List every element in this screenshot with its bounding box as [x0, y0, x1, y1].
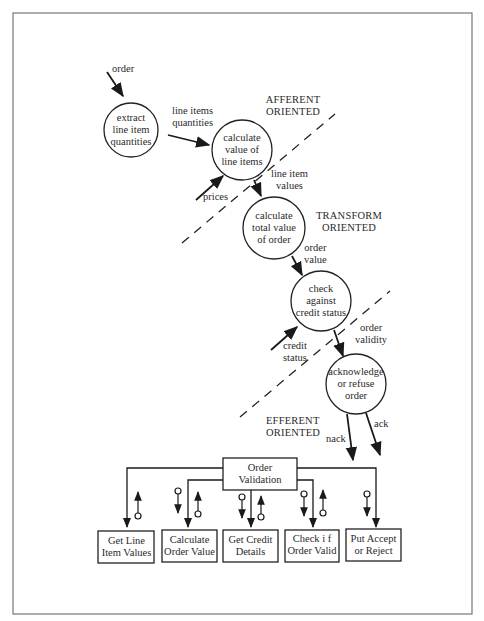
region-efferent-label: EFFERENT ORIENTED [266, 415, 328, 439]
flow-arrow-line-item-values [254, 180, 261, 196]
line: ack [374, 418, 389, 430]
line: prices [203, 191, 228, 203]
line: Details [223, 546, 278, 558]
line: order [304, 242, 327, 254]
line: line item [271, 168, 308, 180]
flow-arrow-order-value [292, 256, 302, 275]
line: Validation [223, 474, 297, 486]
line: order [326, 390, 386, 402]
module-label-check-if-order-valid: Check i f Order Valid [285, 533, 339, 557]
line: or Reject [346, 545, 401, 557]
line: Get Credit [223, 534, 278, 546]
flow-label-line-items-quantities: line items quantities [172, 105, 213, 129]
flow-label-prices: prices [203, 191, 228, 203]
flow-arrow-nack [347, 414, 353, 460]
region-afferent-label: AFFERENT ORIENTED [262, 94, 324, 118]
line: line items [172, 105, 213, 117]
process-label-calc-total: calculate total value of order [243, 210, 305, 246]
data-couples [135, 488, 370, 520]
line: Put Accept [346, 533, 401, 545]
page-frame [13, 13, 472, 614]
process-label-extract: extract line item quantities [104, 112, 158, 148]
line: calculate [243, 210, 305, 222]
line: Calculate [163, 534, 216, 546]
module-label-order-validation: Order Validation [223, 462, 297, 486]
process-label-check-credit: check against credit status [291, 283, 351, 319]
line: extract [104, 112, 158, 124]
line: Item Values [99, 547, 154, 559]
line: line item [104, 124, 158, 136]
line: order [112, 63, 134, 75]
line: Order Valid [285, 545, 339, 557]
line: line items [212, 156, 272, 168]
line: or refuse [326, 378, 386, 390]
region-afferent-text: AFFERENT ORIENTED [262, 94, 324, 118]
region-efferent-text: EFFERENT ORIENTED [266, 415, 328, 439]
region-transform-label: TRANSFORM ORIENTED [315, 210, 383, 234]
flow-label-order-value: order value [304, 242, 327, 266]
line: of order [243, 234, 305, 246]
line: Order Value [163, 546, 216, 558]
flow-arrow-order [107, 72, 123, 96]
process-label-ack-refuse: acknowledge or refuse order [326, 366, 386, 402]
line: Get Line [99, 535, 154, 547]
module-label-get-line-item-values: Get Line Item Values [99, 535, 154, 559]
module-label-calculate-order-value: Calculate Order Value [163, 534, 216, 558]
line: validity [355, 334, 387, 346]
line: quantities [172, 117, 213, 129]
line: values [271, 180, 308, 192]
line: credit [283, 340, 307, 352]
flow-label-order: order [112, 63, 134, 75]
flow-label-credit-status: credit status [283, 340, 307, 364]
flow-label-ack: ack [374, 418, 389, 430]
line: credit status [291, 307, 351, 319]
line: Order [223, 462, 297, 474]
line: value of [212, 144, 272, 156]
diagram-canvas [0, 0, 484, 621]
line: calculate [212, 132, 272, 144]
region-transform-text: TRANSFORM ORIENTED [315, 210, 383, 234]
line: against [291, 295, 351, 307]
line: total value [243, 222, 305, 234]
line: quantities [104, 136, 158, 148]
module-label-put-accept-or-reject: Put Accept or Reject [346, 533, 401, 557]
line: value [304, 254, 327, 266]
flow-label-line-item-values: line item values [271, 168, 308, 192]
line: order [355, 322, 387, 334]
line: check [291, 283, 351, 295]
module-label-get-credit-details: Get Credit Details [223, 534, 278, 558]
line: Check i f [285, 533, 339, 545]
flow-label-nack: nack [326, 433, 346, 445]
line: acknowledge [326, 366, 386, 378]
line: status [283, 352, 307, 364]
process-label-calc-line-values: calculate value of line items [212, 132, 272, 168]
flow-label-order-validity: order validity [355, 322, 387, 346]
flow-arrow-line-items-quantities [168, 135, 209, 145]
line: nack [326, 433, 346, 445]
